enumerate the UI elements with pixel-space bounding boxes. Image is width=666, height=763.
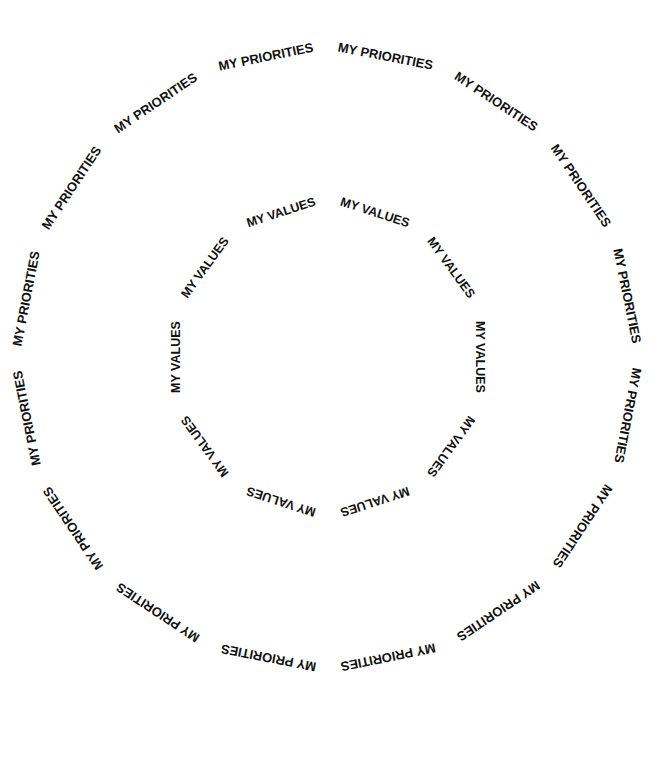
outer-label: MY PRIORITIES: [113, 580, 202, 646]
outer-label: MY PRIORITIES: [452, 69, 541, 135]
outer-label: MY PRIORITIES: [111, 70, 200, 137]
inner-label: MY VALUES: [178, 235, 232, 301]
outer-label: MY PRIORITIES: [454, 578, 543, 645]
inner-label: MY VALUES: [245, 195, 318, 230]
inner-label: MY VALUES: [178, 413, 232, 479]
outer-label: MY PRIORITIES: [219, 641, 317, 674]
outer-label: MY PRIORITIES: [10, 249, 43, 347]
outer-label: MY PRIORITIES: [339, 640, 437, 674]
inner-label: MY VALUES: [245, 484, 318, 519]
outer-label: MY PRIORITIES: [10, 369, 44, 467]
outer-label: MY PRIORITIES: [40, 484, 107, 573]
outer-label: MY PRIORITIES: [610, 247, 644, 345]
inner-label: MY VALUES: [339, 484, 412, 519]
outer-label: MY PRIORITIES: [548, 141, 615, 230]
outer-label: MY PRIORITIES: [39, 143, 105, 232]
outer-label: MY PRIORITIES: [550, 482, 616, 571]
outer-label: MY PRIORITIES: [337, 40, 435, 73]
outer-label: MY PRIORITIES: [217, 40, 315, 74]
inner-label: MY VALUES: [424, 235, 478, 301]
outer-label: MY PRIORITIES: [611, 367, 644, 465]
inner-label: MY VALUES: [424, 413, 478, 479]
inner-label: MY VALUES: [473, 321, 487, 393]
inner-label: MY VALUES: [169, 321, 183, 393]
inner-ring-my-values: MY VALUESMY VALUESMY VALUESMY VALUESMY V…: [169, 195, 487, 520]
inner-label: MY VALUES: [339, 195, 412, 230]
outer-ring-my-priorities: MY PRIORITIESMY PRIORITIESMY PRIORITIESM…: [10, 40, 645, 675]
concentric-text-rings: MY PRIORITIESMY PRIORITIESMY PRIORITIESM…: [0, 0, 666, 763]
